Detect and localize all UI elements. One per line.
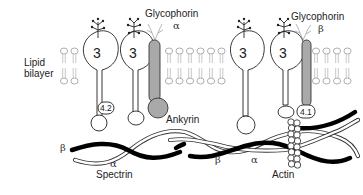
svg-text:4.1: 4.1 [300,107,312,117]
spectrin-label: Spectrin [96,169,133,180]
actin-monomer [288,161,294,167]
lipid-head [186,78,193,84]
actin-monomer [288,131,294,137]
spectrin-alpha-symbol-2: α [251,154,258,165]
spectrin-beta-strand [72,144,180,158]
actin-filament [288,119,301,168]
lipid-head [197,48,204,54]
band3-label: 3 [129,45,137,61]
lipid-bilayer-label: Lipid [24,57,45,68]
lipid-head [312,78,319,84]
membrane-cytoskeleton-diagram: 3 3 3 3 [0,0,363,195]
actin-monomer [288,143,294,149]
lipid-head [165,78,172,84]
lipid-head [323,78,330,84]
lipid-head [344,48,351,54]
lipid-head [60,78,67,84]
actin-monomer [288,149,294,155]
spectrin-beta-symbol-2: β [215,154,221,165]
actin-monomer [288,137,294,143]
band3-protein-1: 3 [83,31,118,131]
protein-4-2: 4.2 [98,102,114,114]
lipid-head [71,78,78,84]
lipid-head [218,78,225,84]
svg-text:4.2: 4.2 [100,103,112,113]
lipid-head [176,78,183,84]
actin-monomer [294,150,300,156]
lipid-head [333,78,340,84]
lipid-head [333,48,340,54]
actin-monomer [294,162,300,168]
protein-4-1: 4.1 [297,105,315,118]
band3-label: 3 [279,45,287,61]
lipid-head [218,48,225,54]
lipid-head [323,48,330,54]
lipid-head [176,48,183,54]
lipid-head [60,48,67,54]
actin-monomer [294,156,300,162]
band3-label: 3 [239,45,247,61]
actin-monomer [294,132,300,138]
actin-monomer [288,119,294,125]
glycophorin-alpha-symbol: α [173,20,180,31]
band3-protein-4: 3 [270,31,304,118]
glycophorin-beta-label: Glycophorin [291,11,344,22]
lipid-head [71,48,78,54]
actin-monomer [294,144,300,150]
lipid-bilayer-label-2: bilayer [24,68,54,79]
lipid-head [207,48,214,54]
ankyrin-label: Ankyrin [166,114,199,125]
actin-monomer [294,138,300,144]
glycophorin-beta-symbol: β [318,23,324,34]
lipid-head [207,78,214,84]
lipid-head [165,48,172,54]
lipid-head [344,78,351,84]
glycophorin-alpha-label: Glycophorin [145,8,198,19]
lipid-head [186,48,193,54]
lipid-head [197,78,204,84]
band3-protein-3: 3 [230,31,264,134]
actin-monomer [288,155,294,161]
actin-monomer [288,125,294,131]
band3-label: 3 [93,45,101,61]
actin-monomer [294,120,300,126]
lipid-head [312,48,319,54]
spectrin-alpha-symbol: α [110,158,117,169]
actin-label: Actin [272,169,294,180]
spectrin-beta-symbol: β [60,142,66,153]
actin-monomer [294,126,300,132]
